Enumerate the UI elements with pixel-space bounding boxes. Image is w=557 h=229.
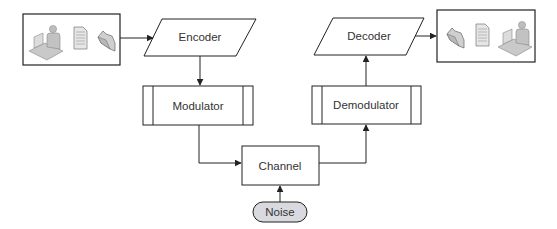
encoder-label: Encoder bbox=[179, 31, 222, 43]
modulator-node: Modulator bbox=[143, 86, 253, 125]
modulator-label: Modulator bbox=[172, 100, 223, 112]
edge-modulator-channel bbox=[199, 125, 241, 163]
communication-diagram: Encoder Decoder Modulator Demodulator Ch… bbox=[0, 0, 557, 229]
noise-label: Noise bbox=[265, 206, 294, 218]
document-icon bbox=[476, 24, 489, 46]
source-box bbox=[23, 14, 120, 65]
noise-node: Noise bbox=[253, 202, 307, 222]
destination-box bbox=[437, 10, 535, 62]
decoder-label: Decoder bbox=[347, 30, 391, 42]
edge-channel-demodulator bbox=[319, 125, 366, 163]
encoder-node: Encoder bbox=[144, 19, 256, 56]
decoder-node: Decoder bbox=[314, 18, 424, 55]
document-icon bbox=[74, 27, 87, 49]
demodulator-node: Demodulator bbox=[312, 86, 421, 124]
demodulator-label: Demodulator bbox=[333, 99, 399, 111]
channel-node: Channel bbox=[242, 146, 319, 185]
channel-label: Channel bbox=[259, 160, 302, 172]
